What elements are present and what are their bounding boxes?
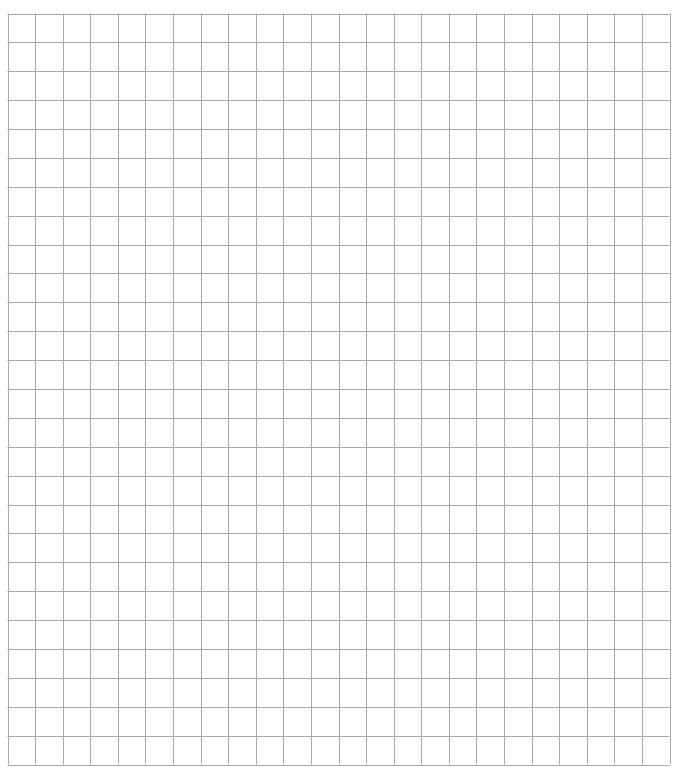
graph-paper-grid (0, 0, 679, 768)
